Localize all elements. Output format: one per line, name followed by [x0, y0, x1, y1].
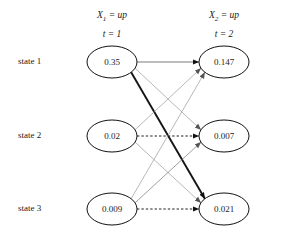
column-time-label-t1: t = 1	[62, 30, 162, 40]
row-label-2: state 2	[18, 130, 41, 140]
node-value-n11: 0.35	[104, 57, 120, 67]
column-time-label-t2: t = 2	[174, 30, 274, 40]
node-value-n21: 0.02	[104, 131, 120, 141]
row-label-1: state 1	[18, 56, 41, 66]
variable-value: up	[229, 10, 239, 20]
column-header-t1: X1 = upt = 1	[62, 11, 162, 39]
equals-sign: =	[218, 10, 229, 20]
node-value-n31: 0.009	[102, 204, 122, 214]
column-variable-label-t2: X2 = up	[174, 11, 274, 23]
node-value-n22: 0.007	[214, 131, 234, 141]
figure-canvas: X1 = upt = 1X2 = upt = 2 state 1state 2s…	[0, 0, 287, 248]
column-variable-label-t1: X1 = up	[62, 11, 162, 23]
node-value-n32: 0.021	[214, 204, 234, 214]
row-label-3: state 3	[18, 203, 41, 213]
node-value-n12: 0.147	[214, 57, 234, 67]
equals-sign: =	[106, 10, 117, 20]
edge-layer	[131, 62, 205, 209]
variable-value: up	[117, 10, 127, 20]
column-header-t2: X2 = upt = 2	[174, 11, 274, 39]
